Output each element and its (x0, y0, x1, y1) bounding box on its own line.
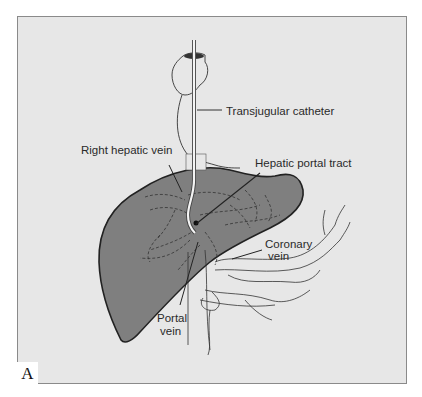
portal-vein-label-line1: Portal (157, 312, 187, 325)
coronary-vein-label-line2: vein (268, 250, 289, 263)
jugular-vein-outline (172, 53, 208, 95)
panel-letter: A (17, 362, 38, 384)
right-hepatic-vein-label: Right hepatic vein (81, 144, 172, 157)
hepatic-portal-tract-label: Hepatic portal tract (255, 157, 352, 170)
transjugular-catheter-label: Transjugular catheter (226, 105, 334, 118)
portal-vein-label-line2: vein (160, 325, 181, 338)
liver-anatomy-illustration (0, 0, 422, 397)
